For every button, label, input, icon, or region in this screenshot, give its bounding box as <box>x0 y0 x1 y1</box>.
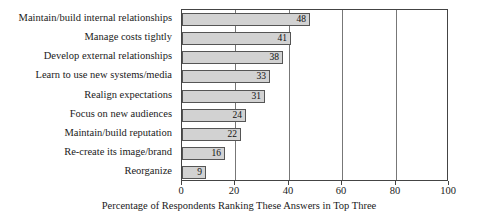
x-tick-label: 80 <box>390 185 401 197</box>
bar-value-label: 16 <box>212 148 222 159</box>
plot-area: 48413833312422169 <box>181 9 448 181</box>
bar-value-label: 9 <box>197 167 202 178</box>
bar-value-label: 24 <box>233 110 243 121</box>
bar-value-label: 22 <box>228 129 238 140</box>
bar: 38 <box>182 51 283 64</box>
category-axis: Maintain/build internal relationshipsMan… <box>0 9 176 181</box>
category-label: Focus on new audiences <box>70 107 172 121</box>
x-tick-label: 40 <box>283 185 294 197</box>
category-label: Maintain/build reputation <box>64 126 172 140</box>
bar: 22 <box>182 128 241 141</box>
category-label: Realign expectations <box>84 88 172 102</box>
x-axis: 020406080100 <box>181 181 448 197</box>
category-label: Develop external relationships <box>44 49 172 63</box>
x-axis-title: Percentage of Respondents Ranking These … <box>0 199 478 213</box>
bar-value-label: 31 <box>252 91 262 102</box>
bar-value-label: 33 <box>257 71 267 82</box>
category-label: Reorganize <box>124 164 172 178</box>
gridline-80 <box>396 10 397 180</box>
bar: 48 <box>182 13 310 26</box>
bar-value-label: 41 <box>278 33 288 44</box>
bar: 31 <box>182 90 265 103</box>
bar: 41 <box>182 32 291 45</box>
category-label: Learn to use new systems/media <box>36 68 172 82</box>
category-label: Manage costs tightly <box>85 30 173 44</box>
bar-value-label: 48 <box>297 14 307 25</box>
bar: 16 <box>182 147 225 160</box>
bar: 9 <box>182 166 206 179</box>
x-tick-label: 60 <box>336 185 347 197</box>
bar: 24 <box>182 109 246 122</box>
gridline-60 <box>342 10 343 180</box>
bar: 33 <box>182 70 270 83</box>
category-label: Maintain/build internal relationships <box>19 11 172 25</box>
x-tick-label: 20 <box>229 185 240 197</box>
x-tick-label: 100 <box>440 185 456 197</box>
bar-chart: Maintain/build internal relationshipsMan… <box>0 0 478 221</box>
category-label: Re-create its image/brand <box>64 145 172 159</box>
x-tick-label: 0 <box>178 185 183 197</box>
bar-value-label: 38 <box>270 52 280 63</box>
